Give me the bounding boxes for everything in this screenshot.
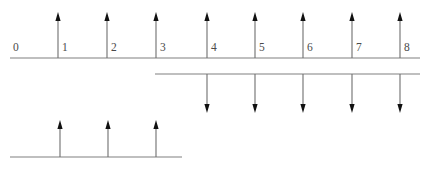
up-arrow bbox=[204, 12, 209, 58]
tick-label: 1 bbox=[62, 41, 68, 53]
tick-label: 4 bbox=[211, 41, 217, 53]
arrow-head-up-icon bbox=[55, 12, 60, 21]
arrow-head-up-icon bbox=[349, 12, 354, 21]
lower-axis-arrows bbox=[57, 120, 158, 157]
arrow-head-up-icon bbox=[153, 12, 158, 21]
arrow-head-up-icon bbox=[300, 12, 305, 21]
up-arrow bbox=[55, 12, 60, 58]
arrow-head-up-icon bbox=[105, 120, 110, 129]
up-arrow bbox=[300, 12, 305, 58]
arrow-head-up-icon bbox=[57, 120, 62, 129]
middle-axis-arrows bbox=[204, 74, 402, 113]
arrow-head-up-icon bbox=[204, 12, 209, 21]
upper-axis-group: 012345678 bbox=[10, 12, 420, 58]
up-arrow bbox=[153, 120, 158, 157]
tick-label: 0 bbox=[13, 41, 19, 53]
up-arrow bbox=[349, 12, 354, 58]
arrow-head-down-icon bbox=[397, 104, 402, 113]
tick-label: 6 bbox=[307, 41, 313, 53]
arrow-head-down-icon bbox=[349, 104, 354, 113]
tick-label: 7 bbox=[356, 41, 362, 53]
upper-axis-arrows bbox=[55, 12, 402, 58]
up-arrow bbox=[153, 12, 158, 58]
down-arrow bbox=[397, 74, 402, 113]
down-arrow bbox=[349, 74, 354, 113]
impulse-train-figure: 012345678 bbox=[0, 0, 428, 170]
up-arrow bbox=[397, 12, 402, 58]
middle-axis-group bbox=[155, 74, 420, 113]
up-arrow bbox=[104, 12, 109, 58]
down-arrow bbox=[204, 74, 209, 113]
arrow-head-down-icon bbox=[300, 104, 305, 113]
upper-axis-tick-labels: 012345678 bbox=[13, 41, 410, 53]
arrow-head-up-icon bbox=[397, 12, 402, 21]
arrow-head-down-icon bbox=[204, 104, 209, 113]
arrow-head-up-icon bbox=[104, 12, 109, 21]
tick-label: 8 bbox=[404, 41, 410, 53]
tick-label: 5 bbox=[259, 41, 265, 53]
arrow-head-up-icon bbox=[153, 120, 158, 129]
up-arrow bbox=[252, 12, 257, 58]
tick-label: 3 bbox=[160, 41, 166, 53]
tick-label: 2 bbox=[111, 41, 117, 53]
up-arrow bbox=[105, 120, 110, 157]
arrow-head-up-icon bbox=[252, 12, 257, 21]
down-arrow bbox=[252, 74, 257, 113]
up-arrow bbox=[57, 120, 62, 157]
diagram-canvas: 012345678 bbox=[0, 0, 428, 170]
lower-axis-group bbox=[10, 120, 182, 157]
arrow-head-down-icon bbox=[252, 104, 257, 113]
down-arrow bbox=[300, 74, 305, 113]
